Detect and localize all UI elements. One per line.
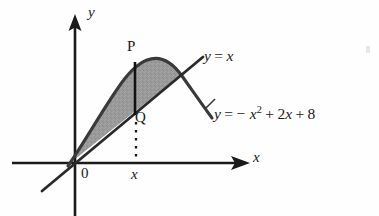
parabola-equation-label: y=−x2+2x+8 <box>214 106 315 122</box>
parabola-eq-plus-2: + <box>295 105 304 122</box>
parabola-eq-minus: − <box>236 105 245 122</box>
origin-label: 0 <box>81 166 89 181</box>
parabola-eq-exponent: 2 <box>257 104 262 115</box>
parabola-eq-plus-1: + <box>265 105 274 122</box>
x-axis-label: x <box>253 150 260 165</box>
line-y-equals-x <box>42 57 203 191</box>
line-equation-label: y=x <box>204 48 233 64</box>
shaded-region <box>70 58 182 163</box>
parabola-eq-equals: = <box>224 105 233 122</box>
point-p-label: P <box>127 39 135 54</box>
parabola-eq-coefficient: 2 <box>277 105 285 122</box>
line-eq-y: y <box>204 47 211 64</box>
parabola-eq-x-squared-base: x <box>250 105 257 122</box>
page-speck <box>366 46 370 53</box>
parabola-eq-y: y <box>214 105 221 122</box>
parabola-eq-constant: 8 <box>308 105 316 122</box>
line-eq-equals: = <box>214 47 223 64</box>
line-eq-x: x <box>226 47 233 64</box>
figure-canvas <box>0 0 379 216</box>
y-axis-label: y <box>88 5 95 20</box>
point-q-label: Q <box>135 110 146 125</box>
y-axis <box>69 14 82 216</box>
math-figure: y x 0 x P Q y=x y=−x2+2x+8 <box>0 0 379 216</box>
parabola-eq-x-linear: x <box>285 105 292 122</box>
x-tick-label: x <box>131 167 138 182</box>
